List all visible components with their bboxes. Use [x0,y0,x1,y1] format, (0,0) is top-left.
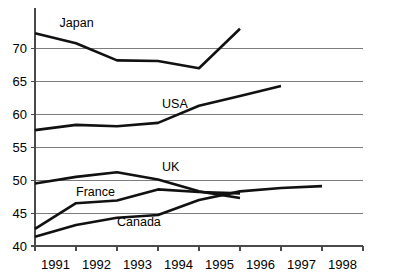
y-tick-label-40: 40 [13,239,27,254]
x-tick-labels-group: 19911992199319941995199619971998 [41,257,357,272]
x-tick-label-1998: 1998 [328,257,357,272]
y-tick-labels-group: 40455055606570 [13,41,27,254]
y-tick-label-70: 70 [13,41,27,56]
series-labels-group: JapanUSAUKFranceCanada [60,16,189,229]
x-tick-label-1991: 1991 [41,257,70,272]
x-tick-label-1992: 1992 [82,257,111,272]
y-tick-label-50: 50 [13,173,27,188]
y-tick-label-65: 65 [13,74,27,89]
series-label-usa: USA [162,97,188,111]
y-tick-label-45: 45 [13,206,27,221]
x-tick-label-1993: 1993 [123,257,152,272]
y-tick-label-55: 55 [13,140,27,155]
series-line-usa [35,86,281,130]
x-tick-label-1996: 1996 [246,257,275,272]
x-tick-label-1995: 1995 [205,257,234,272]
series-label-canada: Canada [117,215,161,229]
series-group [35,29,322,237]
series-label-france: France [76,185,115,199]
y-tick-label-60: 60 [13,107,27,122]
x-tick-label-1994: 1994 [164,257,193,272]
series-label-japan: Japan [60,16,94,30]
chart-canvas: 40455055606570 1991199219931994199519961… [0,0,415,277]
gridlines-group [35,49,363,247]
line-chart: 40455055606570 1991199219931994199519961… [0,0,415,277]
series-label-uk: UK [162,160,180,174]
x-tick-label-1997: 1997 [287,257,316,272]
